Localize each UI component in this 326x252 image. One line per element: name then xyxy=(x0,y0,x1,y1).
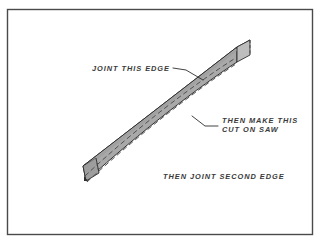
illustration-canvas: JOINT THIS EDGE THEN MAKE THIS CUT ON SA… xyxy=(0,0,326,252)
illustration-figure: JOINT THIS EDGE THEN MAKE THIS CUT ON SA… xyxy=(0,0,326,252)
callout-joint-this-edge: JOINT THIS EDGE xyxy=(92,64,170,73)
callout-then-make-this: THEN MAKE THIS xyxy=(222,116,298,125)
callout-then-joint-second-edge: THEN JOINT SECOND EDGE xyxy=(163,172,285,181)
callout-cut-on-saw: CUT ON SAW xyxy=(222,125,279,134)
